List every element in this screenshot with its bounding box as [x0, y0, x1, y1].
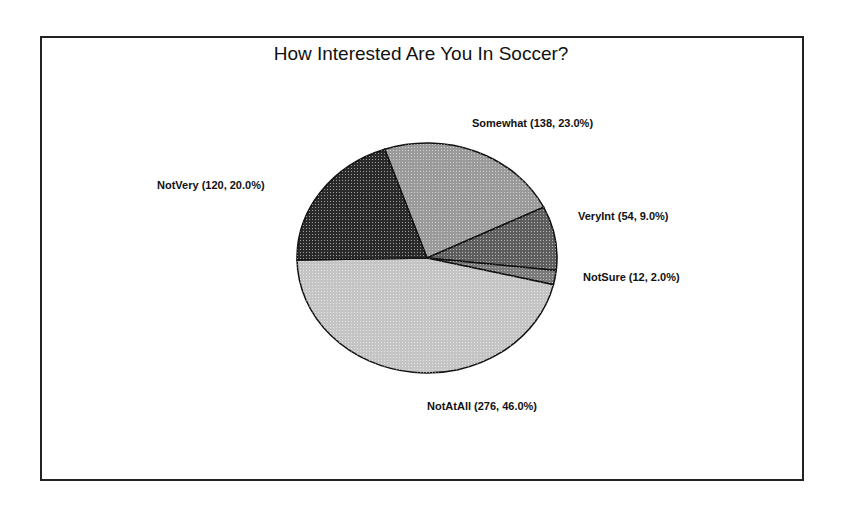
slice-label-notatall: NotAtAll (276, 46.0%): [427, 400, 537, 412]
pie-chart: [0, 0, 842, 515]
slice-label-somewhat: Somewhat (138, 23.0%): [472, 117, 593, 129]
slice-label-notsure: NotSure (12, 2.0%): [583, 271, 680, 283]
slice-label-veryint: VeryInt (54, 9.0%): [578, 210, 669, 222]
slice-label-notvery: NotVery (120, 20.0%): [157, 179, 265, 191]
